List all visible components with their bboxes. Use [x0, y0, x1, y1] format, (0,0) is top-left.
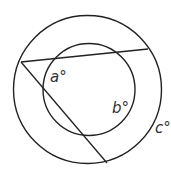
outer-circle	[14, 16, 162, 164]
inner-circle	[43, 44, 135, 136]
label-c: c°	[155, 119, 171, 137]
label-a: a°	[50, 68, 67, 86]
secant-line-top	[21, 49, 148, 62]
label-b: b°	[112, 99, 129, 117]
concentric-circles-diagram: a° b° c°	[0, 0, 171, 181]
